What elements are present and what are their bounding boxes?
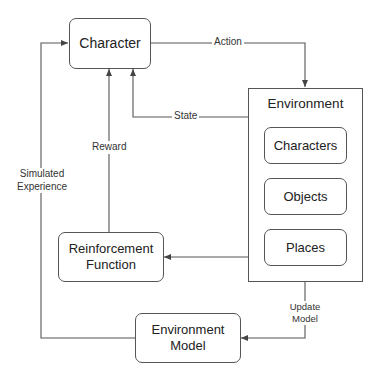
action-label: Action [212, 36, 244, 49]
character-label: Character [79, 35, 140, 52]
state-label: State [172, 110, 199, 123]
simulated-experience-label: Simulated Experience [12, 168, 72, 193]
simulated-experience-label-2: Experience [14, 181, 70, 194]
places-node: Places [264, 229, 347, 266]
reward-label: Reward [90, 141, 128, 154]
update-model-label-1: Update [288, 301, 322, 313]
objects-label: Objects [283, 189, 327, 205]
reinforcement-function-label-1: Reinforcement [69, 241, 154, 257]
character-node: Character [69, 18, 151, 69]
places-label: Places [286, 240, 325, 256]
simulated-experience-label-1: Simulated [14, 168, 70, 181]
reinforcement-function-label-2: Function [86, 257, 136, 273]
characters-label: Characters [274, 138, 338, 154]
action-arrow [151, 43, 305, 87]
update-model-label-2: Model [288, 313, 322, 325]
environment-label: Environment [248, 96, 363, 111]
update-model-label: Update Model [286, 301, 324, 325]
environment-model-label-1: Environment [152, 322, 225, 338]
environment-model-node: Environment Model [135, 313, 241, 363]
objects-node: Objects [264, 178, 347, 215]
reinforcement-function-node: Reinforcement Function [58, 232, 164, 282]
environment-model-label-2: Model [170, 338, 205, 354]
characters-node: Characters [264, 127, 347, 164]
